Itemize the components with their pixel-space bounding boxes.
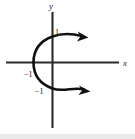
parabola-upper-branch: [34, 34, 83, 63]
parabola-figure: y x 1 −1 −1: [0, 0, 135, 139]
parabola-lower-branch: [34, 63, 85, 90]
graph-canvas: y x 1 −1 −1: [0, 0, 135, 139]
page-bottom-edge: [0, 134, 135, 139]
x-axis-label: x: [122, 58, 127, 68]
lower-branch-arrowhead: [79, 86, 91, 96]
tick-label-one: 1: [55, 28, 59, 37]
tick-label-x-minus-one: −1: [24, 70, 33, 79]
tick-label-y-minus-one: −1: [35, 87, 44, 96]
y-axis-label: y: [48, 1, 53, 11]
